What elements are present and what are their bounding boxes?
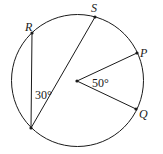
label-r: R: [24, 20, 33, 34]
point-bottom: [29, 126, 32, 129]
chord-r-bottom: [31, 33, 32, 128]
angle-label-30: 30°: [35, 88, 52, 102]
chord-bottom-s: [31, 17, 95, 128]
label-p: P: [139, 46, 148, 60]
center-point: [75, 79, 78, 82]
circle-diagram: R S P Q 30° 50°: [0, 0, 163, 154]
point-q: [134, 107, 137, 110]
point-s: [93, 15, 96, 18]
angle-label-50: 50°: [92, 76, 109, 90]
label-s: S: [91, 1, 97, 15]
point-p: [135, 51, 138, 54]
label-q: Q: [139, 107, 148, 121]
